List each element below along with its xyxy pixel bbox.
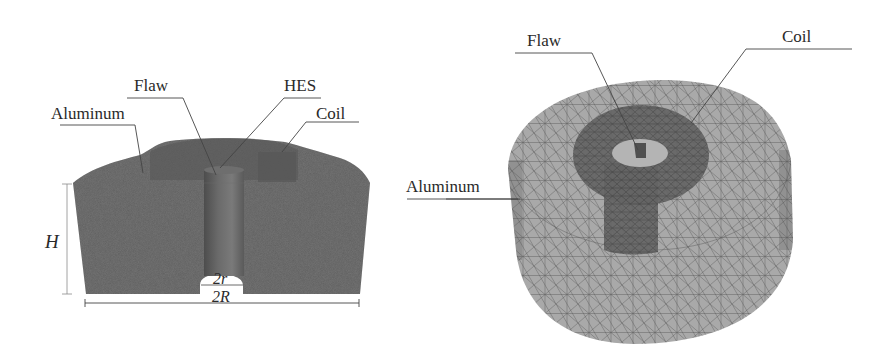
inner-diameter-label: 2r — [213, 270, 228, 287]
flaw-label: Flaw — [527, 31, 562, 50]
flaw-top — [204, 166, 244, 174]
aluminum-label: Aluminum — [51, 104, 125, 123]
flaw-mesh — [604, 165, 658, 254]
flaw-column — [204, 170, 244, 276]
hes-label: HES — [284, 76, 316, 95]
coil-label: Coil — [316, 104, 346, 123]
cross-section-panel: Flaw HES Aluminum Coil H 2r 2R — [0, 0, 446, 355]
cross-section-diagram: Flaw HES Aluminum Coil H 2r 2R — [0, 0, 446, 355]
outer-diameter-label: 2R — [212, 288, 230, 305]
height-label: H — [44, 231, 60, 252]
height-dimension — [62, 184, 72, 294]
coil-block — [258, 152, 296, 182]
flaw-label: Flaw — [134, 76, 169, 95]
mesh-panel: Flaw Coil — [446, 0, 892, 355]
mesh-diagram: Flaw Coil — [446, 0, 892, 355]
coil-label: Coil — [782, 27, 812, 46]
